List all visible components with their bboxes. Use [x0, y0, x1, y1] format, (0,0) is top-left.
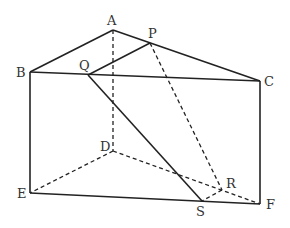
label-F: F [266, 197, 275, 212]
edge-DF-dashed [113, 151, 260, 204]
label-E: E [17, 186, 27, 201]
edge-AB-solid [30, 30, 113, 72]
edge-QS-solid [88, 75, 202, 201]
label-P: P [148, 26, 157, 41]
edge-AC-solid [113, 30, 260, 81]
label-D: D [100, 139, 110, 154]
edge-QP-solid [88, 43, 150, 75]
edge-EF-solid [30, 193, 260, 204]
prism-diagram: ABCPQDEFRS [0, 0, 290, 228]
label-S: S [196, 204, 205, 219]
edge-BC-solid [30, 72, 260, 81]
label-A: A [106, 13, 117, 28]
label-B: B [16, 65, 26, 80]
label-Q: Q [79, 58, 90, 73]
vertex-labels: ABCPQDEFRS [16, 13, 275, 219]
label-R: R [226, 176, 237, 191]
edge-RS-dashed [202, 190, 222, 201]
edge-DE-dashed [30, 151, 113, 193]
label-C: C [264, 74, 274, 89]
